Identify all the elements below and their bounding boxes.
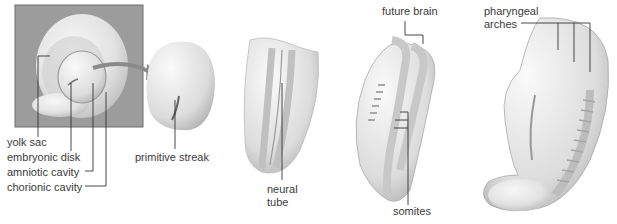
amnion xyxy=(58,51,106,103)
label-arches: arches xyxy=(484,18,517,30)
embryonic-disk-oval xyxy=(147,41,216,130)
label-tube: tube xyxy=(267,196,288,208)
label-yolk-sac: yolk sac xyxy=(7,136,47,148)
stage-4-somite-embryo xyxy=(356,40,435,201)
stage-3-neural-folds xyxy=(244,38,318,173)
label-primitive-streak: primitive streak xyxy=(135,151,209,163)
label-somites: somites xyxy=(393,205,431,217)
yolk-stalk-bulge xyxy=(488,179,552,211)
label-chorionic-cavity: chorionic cavity xyxy=(7,181,82,193)
label-pharyngeal: pharyngeal xyxy=(484,5,538,17)
label-future-brain: future brain xyxy=(382,5,438,17)
embryo-development-diagram: yolk sac embryonic disk amniotic cavity … xyxy=(0,0,617,224)
diagram-artwork xyxy=(0,0,617,224)
future-brain-leader xyxy=(405,21,423,44)
label-embryonic-disk: embryonic disk xyxy=(7,151,80,163)
stage-2-disk xyxy=(147,41,216,130)
stage-1-implantation xyxy=(15,5,165,127)
label-amniotic-cavity: amniotic cavity xyxy=(7,166,79,178)
label-neural: neural xyxy=(267,183,298,195)
